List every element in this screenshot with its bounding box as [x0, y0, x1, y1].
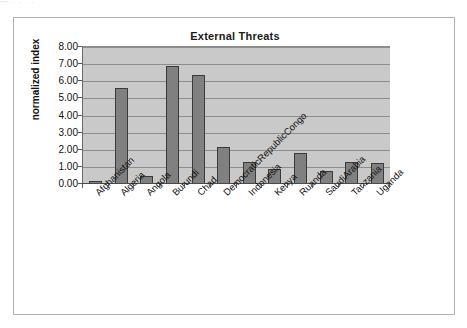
y-axis-tick-mark: [78, 97, 82, 98]
x-axis-tick-mark: [338, 184, 339, 188]
x-axis-tick-mark: [287, 184, 288, 188]
x-axis-tick-mark: [133, 184, 134, 188]
y-axis-tick-label: 4.00: [48, 109, 78, 120]
x-axis-tick-mark: [389, 184, 390, 188]
y-axis-tick-label: 2.00: [48, 143, 78, 154]
gridline: [83, 98, 390, 99]
y-axis-tick-mark: [78, 80, 82, 81]
gridline: [83, 81, 390, 82]
y-axis-tick-labels: 0.001.002.003.004.005.006.007.008.00: [44, 46, 78, 183]
x-axis-tick-mark: [363, 184, 364, 188]
gridline: [83, 64, 390, 65]
gridline: [83, 47, 390, 48]
chart-frame: External Threats normalized index 0.001.…: [13, 17, 455, 315]
y-axis-tick-label: 7.00: [48, 58, 78, 69]
chart-title: External Threats: [14, 30, 456, 42]
y-axis-tick-mark: [78, 115, 82, 116]
gridline: [83, 133, 390, 134]
y-axis-tick-label: 0.00: [48, 178, 78, 189]
scan-edge-artifact-text: — . . . .: [0, 0, 35, 5]
x-axis-tick-mark: [82, 184, 83, 188]
scan-edge-artifact: — . . . .: [0, 0, 467, 7]
x-axis-tick-mark: [312, 184, 313, 188]
y-axis-tick-mark: [78, 166, 82, 167]
y-axis-title: normalized index: [30, 25, 41, 135]
gridline: [83, 116, 390, 117]
gridline: [83, 150, 390, 151]
y-axis-tick-mark: [78, 149, 82, 150]
x-axis-tick-mark: [159, 184, 160, 188]
y-axis-tick-label: 6.00: [48, 75, 78, 86]
x-axis-tick-mark: [236, 184, 237, 188]
bar: [166, 66, 179, 184]
x-axis-tick-mark: [210, 184, 211, 188]
bar: [217, 147, 230, 184]
y-axis-tick-label: 3.00: [48, 126, 78, 137]
x-axis-tick-mark: [261, 184, 262, 188]
y-axis-tick-mark: [78, 132, 82, 133]
y-axis-tick-label: 1.00: [48, 160, 78, 171]
y-axis-tick-label: 8.00: [48, 41, 78, 52]
x-axis-tick-mark: [108, 184, 109, 188]
x-axis-tick-mark: [184, 184, 185, 188]
y-axis-tick-label: 5.00: [48, 92, 78, 103]
y-axis-tick-mark: [78, 63, 82, 64]
y-axis-tick-mark: [78, 46, 82, 47]
